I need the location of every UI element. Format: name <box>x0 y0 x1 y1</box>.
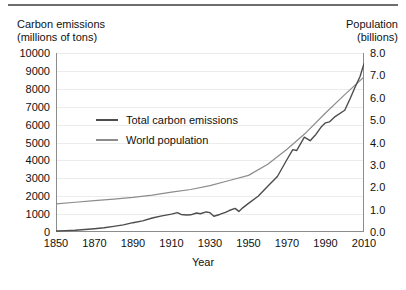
legend-item-emissions: Total carbon emissions <box>96 110 276 130</box>
x-tick-label: 1930 <box>198 238 222 249</box>
legend-label-emissions: Total carbon emissions <box>126 114 238 126</box>
x-tick-label: 2010 <box>352 238 376 249</box>
x-tick-label: 1870 <box>82 238 106 249</box>
x-tick-label: 1990 <box>313 238 337 249</box>
x-axis-label: Year <box>0 256 406 268</box>
legend-swatch-emissions <box>96 119 118 121</box>
legend-label-population: World population <box>126 134 208 146</box>
chart-legend: Total carbon emissions World population <box>96 110 276 150</box>
carbon-emissions-population-chart: Carbon emissions (millions of tons) Popu… <box>0 0 406 290</box>
x-tick-label: 1850 <box>44 238 68 249</box>
x-tick-label: 1910 <box>159 238 183 249</box>
x-tick-label: 1890 <box>121 238 145 249</box>
legend-swatch-population <box>96 139 118 141</box>
x-tick-label: 1970 <box>275 238 299 249</box>
x-tick-label: 1950 <box>236 238 260 249</box>
legend-item-population: World population <box>96 130 276 150</box>
